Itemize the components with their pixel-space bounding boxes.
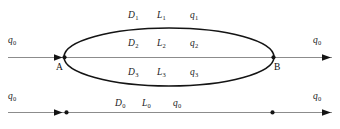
node-a-dot (62, 55, 66, 59)
branch-2-diameter-label: D2 (128, 39, 138, 49)
branch-1-flow-label: q1 (190, 11, 198, 21)
branch-3-length-label: L3 (157, 68, 166, 78)
inlet-arrowhead-icon (54, 54, 63, 60)
equivalent-diameter-label: D0 (115, 99, 125, 109)
equivalent-length-label: L0 (142, 99, 151, 109)
node-a-label: A (56, 63, 63, 73)
equivalent-node-b-dot (270, 110, 274, 114)
outlet-arrowhead-icon (322, 54, 331, 60)
branch-2-length-label: L2 (157, 39, 166, 49)
node-b-dot (271, 55, 275, 59)
branch-1-diameter-label: D1 (128, 11, 138, 21)
equivalent-flow-label: q0 (173, 99, 181, 109)
equivalent-outlet-flow-label: q0 (313, 92, 321, 102)
equivalent-node-a-dot (64, 110, 68, 114)
node-b-label: B (274, 63, 280, 73)
inlet-flow-label: q0 (8, 36, 16, 46)
branch-3-diameter-label: D3 (128, 68, 138, 78)
branch-3-flow-label: q3 (190, 68, 198, 78)
equivalent-outlet-arrowhead-icon (322, 109, 331, 115)
outlet-flow-label: q0 (313, 36, 321, 46)
pipe-network-diagram: q0 q0 A B D1 L1 q1 D2 L2 q2 D3 L3 q3 q0 … (0, 0, 340, 129)
equivalent-inlet-arrowhead-icon (54, 109, 63, 115)
equivalent-inlet-flow-label: q0 (8, 92, 16, 102)
branch-2-flow-label: q2 (190, 39, 198, 49)
diagram-canvas (0, 0, 340, 129)
branch-1-length-label: L1 (157, 11, 166, 21)
